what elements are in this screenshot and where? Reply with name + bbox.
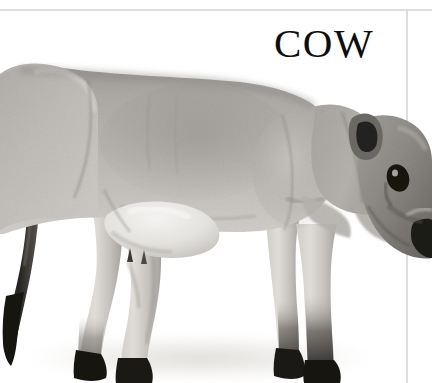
ear-inner bbox=[356, 122, 377, 152]
figure-caption: COW bbox=[268, 22, 380, 64]
hoof-fore-far bbox=[274, 348, 305, 379]
rump bbox=[0, 63, 98, 230]
hoof-hind-near bbox=[116, 358, 153, 383]
eye-highlight bbox=[392, 170, 398, 177]
hoof-fore-near bbox=[303, 360, 340, 383]
page-canvas: COW bbox=[0, 0, 432, 383]
